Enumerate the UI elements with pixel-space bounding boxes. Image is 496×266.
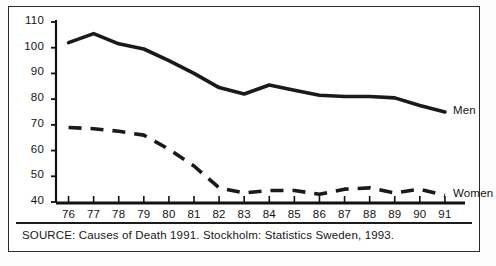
y-axis-tick-label: 60: [14, 143, 44, 155]
x-axis-tick-label: 77: [82, 208, 106, 220]
series-label-women: Women: [453, 187, 493, 199]
x-axis-tick-label: 86: [307, 208, 331, 220]
y-axis-tick-label: 40: [14, 194, 44, 206]
y-axis-tick-label: 100: [14, 40, 44, 52]
x-axis-tick-label: 81: [182, 208, 206, 220]
source-note: SOURCE: Causes of Death 1991. Stockholm:…: [22, 229, 394, 241]
x-axis-tick-label: 83: [232, 208, 256, 220]
x-axis-tick-label: 89: [383, 208, 407, 220]
x-axis-tick-label: 84: [257, 208, 281, 220]
x-axis-tick-label: 90: [408, 208, 432, 220]
y-axis-tick-label: 70: [14, 117, 44, 129]
x-axis-tick-label: 82: [207, 208, 231, 220]
y-axis-tick-label: 90: [14, 65, 44, 77]
x-axis-tick-label: 76: [57, 208, 81, 220]
x-axis-tick-label: 80: [157, 208, 181, 220]
x-axis-tick-label: 88: [358, 208, 382, 220]
y-axis-tick-label: 110: [14, 14, 44, 26]
x-axis-tick-label: 78: [107, 208, 131, 220]
chart-page: 405060708090100110 767778798081828384858…: [0, 0, 496, 266]
x-axis-tick-label: 87: [333, 208, 357, 220]
x-axis-tick-label: 85: [282, 208, 306, 220]
y-axis-tick-label: 80: [14, 91, 44, 103]
y-axis-tick-label: 50: [14, 168, 44, 180]
x-axis-tick-label: 79: [132, 208, 156, 220]
x-axis-tick-label: 91: [433, 208, 457, 220]
source-divider: [16, 222, 472, 224]
series-label-men: Men: [453, 104, 476, 116]
